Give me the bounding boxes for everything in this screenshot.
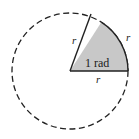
radius-top-label: r [72, 34, 77, 46]
radian-diagram: 1 rad r r r [0, 0, 139, 139]
arc-label: r [126, 31, 131, 43]
radius-bottom-label: r [96, 73, 101, 85]
sector-label: 1 rad [85, 56, 109, 70]
